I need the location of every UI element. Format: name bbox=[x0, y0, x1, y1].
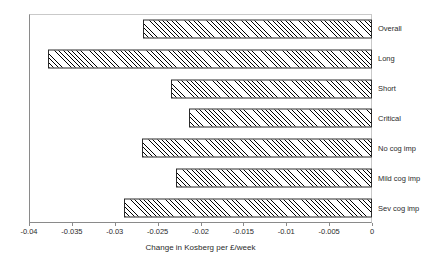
x-tick-label: -0.005 bbox=[318, 227, 339, 237]
category-axis-labels: OverallLongShortCriticalNo cog impMild c… bbox=[378, 14, 446, 223]
x-tick-label: -0.03 bbox=[106, 227, 123, 237]
bar bbox=[189, 109, 372, 128]
x-tick-mark bbox=[372, 223, 373, 226]
x-tick-label: -0.015 bbox=[233, 227, 254, 237]
bar-row bbox=[29, 74, 372, 104]
x-tick-label: -0.01 bbox=[278, 227, 295, 237]
bar bbox=[176, 169, 372, 188]
x-tick-label: -0.025 bbox=[147, 227, 168, 237]
category-label: Mild cog imp bbox=[378, 163, 420, 193]
bar-row bbox=[29, 44, 372, 74]
bar bbox=[124, 199, 372, 218]
bar-row bbox=[29, 104, 372, 134]
x-tick-mark bbox=[29, 223, 30, 226]
x-tick-label: 0 bbox=[370, 227, 374, 237]
category-label: Overall bbox=[378, 14, 402, 44]
x-axis-title: Change in Kosberg per £/week bbox=[29, 243, 372, 252]
category-label: Long bbox=[378, 44, 395, 74]
category-label: Short bbox=[378, 74, 396, 104]
bar bbox=[48, 49, 372, 68]
bar bbox=[142, 139, 372, 158]
x-tick-label: -0.035 bbox=[61, 227, 82, 237]
category-label: Critical bbox=[378, 104, 401, 134]
x-tick-mark bbox=[286, 223, 287, 226]
category-label: No cog imp bbox=[378, 133, 416, 163]
bar-row bbox=[29, 193, 372, 223]
bar-row bbox=[29, 163, 372, 193]
x-tick-mark bbox=[158, 223, 159, 226]
x-axis: -0.04-0.035-0.03-0.025-0.02-0.015-0.01-0… bbox=[29, 223, 372, 241]
bars-layer bbox=[29, 14, 372, 223]
x-tick-mark bbox=[329, 223, 330, 226]
x-tick-mark bbox=[243, 223, 244, 226]
bar-row bbox=[29, 14, 372, 44]
x-tick-label: -0.04 bbox=[20, 227, 37, 237]
bar bbox=[171, 79, 372, 98]
bar-row bbox=[29, 133, 372, 163]
x-tick-mark bbox=[201, 223, 202, 226]
x-tick-label: -0.02 bbox=[192, 227, 209, 237]
bar-chart: -0.04-0.035-0.03-0.025-0.02-0.015-0.01-0… bbox=[0, 0, 446, 268]
category-label: Sev cog imp bbox=[378, 193, 419, 223]
x-tick-mark bbox=[115, 223, 116, 226]
x-tick-mark bbox=[72, 223, 73, 226]
bar bbox=[143, 19, 372, 38]
